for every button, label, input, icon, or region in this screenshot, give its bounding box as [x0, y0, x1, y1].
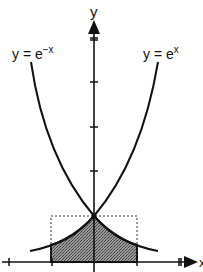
- x-axis-arrow-icon: [184, 256, 198, 268]
- intersection-point: [92, 214, 97, 219]
- y-axis-label: y: [90, 3, 98, 20]
- curve-label-exp-neg: y = e−x: [12, 44, 54, 62]
- exponential-graph: y x y = e−x y = ex: [0, 0, 203, 272]
- curve-label-exp-pos: y = ex: [143, 44, 179, 62]
- y-axis-arrow-icon: [88, 20, 100, 34]
- x-axis-label: x: [199, 255, 203, 270]
